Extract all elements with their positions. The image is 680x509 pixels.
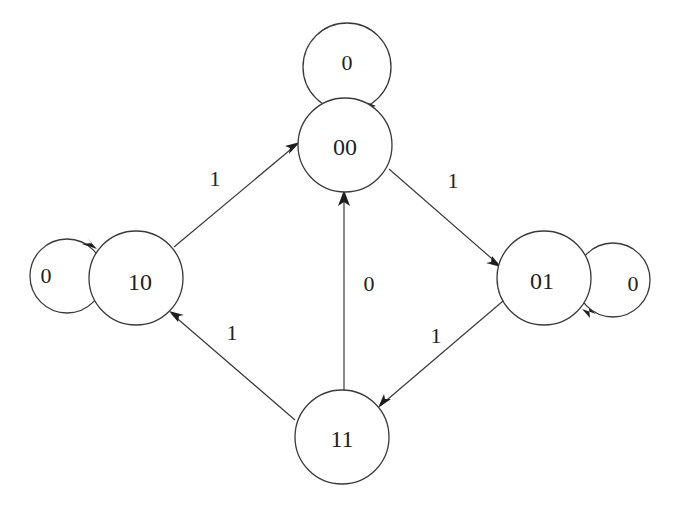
loop-01-label: 0 bbox=[628, 271, 639, 296]
node-00-label: 00 bbox=[333, 134, 357, 160]
loop-10-label: 0 bbox=[41, 263, 52, 288]
edge-01-to-11: 1 bbox=[378, 301, 503, 408]
edge-10-to-00: 1 bbox=[174, 142, 300, 247]
state-node-00: 00 bbox=[298, 98, 392, 192]
edge-01-11-line bbox=[381, 301, 503, 405]
node-01-label: 01 bbox=[530, 268, 554, 294]
edge-11-10-arrowhead-icon bbox=[169, 311, 184, 322]
state-node-01: 01 bbox=[497, 231, 591, 325]
edge-00-to-01: 1 bbox=[389, 168, 501, 268]
edge-00-01-line bbox=[389, 169, 498, 264]
loop-00-label: 0 bbox=[342, 50, 353, 75]
edge-11-to-00: 0 bbox=[338, 190, 375, 390]
edge-11-10-label: 1 bbox=[227, 320, 238, 345]
edge-11-to-10: 1 bbox=[169, 311, 295, 420]
state-diagram: 0 0 0 1 1 1 1 0 00 bbox=[0, 0, 680, 509]
edge-01-11-arrowhead-icon bbox=[378, 394, 391, 408]
node-11-label: 11 bbox=[330, 426, 353, 452]
state-node-11: 11 bbox=[295, 390, 389, 484]
edge-01-11-label: 1 bbox=[431, 323, 442, 348]
node-10-label: 10 bbox=[128, 269, 152, 295]
edge-10-00-line bbox=[174, 145, 296, 247]
edge-00-01-label: 1 bbox=[448, 168, 459, 193]
edge-10-00-label: 1 bbox=[210, 166, 221, 191]
edge-11-00-label: 0 bbox=[364, 271, 375, 296]
loop-01-arrowhead-icon bbox=[582, 308, 596, 318]
state-node-10: 10 bbox=[89, 231, 183, 325]
